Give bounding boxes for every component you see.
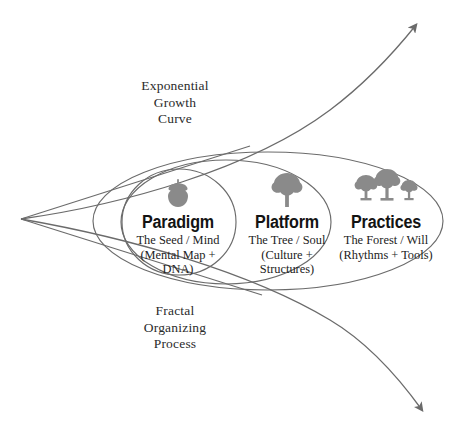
fractal-organizing-process-label: Fractal Organizing Process — [110, 303, 240, 353]
zone-paradigm-heading: Paradigm — [127, 213, 228, 232]
zone-platform-heading: Platform — [244, 213, 330, 232]
acorn-icon — [123, 178, 233, 212]
zone-platform-subtitle: The Tree / Soul (Culture + Structures) — [240, 233, 334, 277]
exponential-growth-curve-label: Exponential Growth Curve — [110, 78, 240, 128]
zone-practices: Practices The Forest / Will (Rhythms + T… — [330, 168, 442, 262]
zone-practices-heading: Practices — [334, 213, 437, 232]
zone-paradigm-subtitle: The Seed / Mind (Mental Map + DNA) — [123, 233, 233, 277]
forest-icon — [330, 168, 442, 212]
zone-practices-subtitle: The Forest / Will (Rhythms + Tools) — [330, 233, 442, 262]
tree-icon — [240, 172, 334, 212]
zone-platform: Platform The Tree / Soul (Culture + Stru… — [240, 172, 334, 277]
diagram-canvas: Exponential Growth Curve Fractal Organiz… — [0, 0, 452, 441]
zone-paradigm: Paradigm The Seed / Mind (Mental Map + D… — [123, 178, 233, 277]
